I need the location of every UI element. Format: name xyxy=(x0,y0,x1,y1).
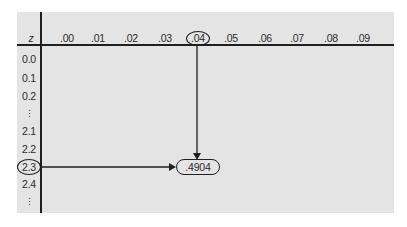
arrow-right-icon xyxy=(169,163,176,171)
arrow-down-icon xyxy=(193,153,201,160)
lookup-arrows xyxy=(0,0,407,227)
